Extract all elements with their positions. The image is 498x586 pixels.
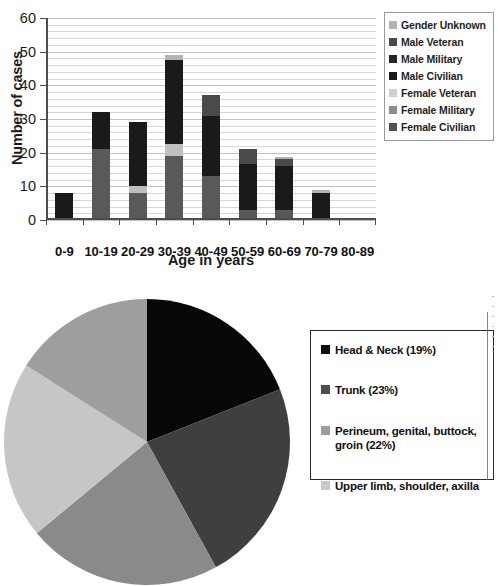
legend-swatch-icon — [321, 426, 330, 435]
legend-item-label: Male Veteran — [401, 36, 463, 48]
legend-item: Perineum, genital, buttock,groin (22%) — [321, 424, 487, 453]
legend-item-label: Male Military — [401, 53, 462, 65]
legend-swatch-icon — [321, 345, 330, 354]
x-axis-tick — [339, 220, 340, 225]
pie-chart-legend: Head & Neck (19%)Trunk (23%)Perineum, ge… — [310, 330, 494, 480]
legend-item-label: Trunk (23%) — [335, 383, 398, 397]
y-axis-tick-label: 0 — [28, 212, 36, 228]
x-axis-tick-labels: 0-910-1920-2930-3940-4950-5960-6970-7980… — [46, 18, 376, 220]
legend-item: Male Civilian — [389, 68, 490, 83]
pie-graphic — [3, 298, 291, 586]
legend-swatch-icon — [321, 385, 330, 394]
legend-item-label: Male Civilian — [401, 70, 463, 82]
bar-chart-x-axis-title: Age in years — [46, 252, 376, 268]
legend-item-label: Female Military — [401, 104, 475, 116]
y-axis-tick-label: 20 — [20, 145, 36, 161]
legend-item: Head & Neck (19%) — [321, 343, 487, 357]
y-axis-tick-label: 10 — [20, 178, 36, 194]
legend-item-label: Female Civilian — [401, 121, 475, 133]
y-axis-tick-label: 40 — [20, 77, 36, 93]
legend-swatch-icon — [389, 55, 397, 63]
x-axis-tick — [375, 220, 376, 225]
legend-swatch-icon — [389, 89, 397, 97]
x-axis-tick — [266, 220, 267, 225]
bar-chart-plot-area: 0102030405060 0-910-1920-2930-3940-4950-… — [46, 18, 376, 220]
gridline-major — [46, 220, 376, 221]
x-axis-tick — [229, 220, 230, 225]
legend-item-label-line2: groin (22%) — [335, 439, 395, 451]
x-axis-tick — [83, 220, 84, 225]
scan-edge-dots — [492, 296, 496, 356]
y-axis-tick-label: 60 — [20, 10, 36, 26]
bar-chart-legend: Gender UnknownMale VeteranMale MilitaryM… — [384, 12, 494, 141]
y-axis-tick-label: 30 — [20, 111, 36, 127]
bar-chart: Number of cases 0102030405060 0-910-1920… — [0, 0, 498, 288]
legend-swatch-icon — [389, 106, 397, 114]
x-axis-tick — [303, 220, 304, 225]
legend-swatch-icon — [389, 72, 397, 80]
legend-item-label: Perineum, genital, buttock,groin (22%) — [335, 424, 477, 453]
legend-swatch-icon — [389, 123, 397, 131]
legend-item: Female Veteran — [389, 85, 490, 100]
legend-item: Gender Unknown — [389, 17, 490, 32]
scan-edge-artifact — [487, 312, 488, 480]
legend-item: Female Military — [389, 102, 490, 117]
legend-swatch-icon — [389, 38, 397, 46]
legend-item-label: Upper limb, shoulder, axilla — [335, 479, 479, 493]
legend-item: Male Veteran — [389, 34, 490, 49]
legend-item-label: Female Veteran — [401, 87, 476, 99]
x-axis-tick — [119, 220, 120, 225]
legend-item: Male Military — [389, 51, 490, 66]
x-axis-tick — [193, 220, 194, 225]
legend-swatch-icon — [321, 481, 330, 490]
legend-item: Upper limb, shoulder, axilla — [321, 479, 487, 493]
y-axis-tick-label: 50 — [20, 44, 36, 60]
pie-svg — [3, 298, 291, 586]
legend-item-label: Gender Unknown — [401, 19, 486, 31]
legend-item: Trunk (23%) — [321, 383, 487, 397]
pie-chart: Head & Neck (19%)Trunk (23%)Perineum, ge… — [0, 288, 498, 480]
legend-item-label: Head & Neck (19%) — [335, 343, 436, 357]
x-axis-tick — [156, 220, 157, 225]
legend-item: Female Civilian — [389, 119, 490, 134]
x-axis-tick — [46, 220, 47, 225]
legend-swatch-icon — [389, 21, 397, 29]
